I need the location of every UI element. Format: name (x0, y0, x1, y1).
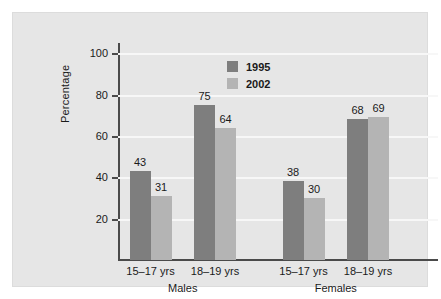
y-axis-tick-label: 40 (96, 171, 108, 183)
bar (304, 198, 325, 260)
legend-swatch-1995 (227, 61, 238, 72)
y-axis-tick (112, 136, 118, 138)
bar (215, 128, 236, 260)
legend-label-2002: 2002 (246, 78, 270, 90)
plot-area: 10080604020 4331756438306869 (118, 43, 438, 260)
y-axis-tick (112, 95, 118, 97)
bar-value-label: 69 (372, 102, 384, 114)
x-axis-category-label: 18–19 yrs (191, 265, 239, 277)
legend-label-1995: 1995 (246, 61, 270, 73)
bar-value-label: 30 (308, 183, 320, 195)
x-axis-category-label: 15–17 yrs (126, 265, 174, 277)
gridline (118, 95, 438, 97)
bar-value-label: 75 (198, 90, 210, 102)
y-axis-tick (112, 177, 118, 179)
legend-swatch-2002 (227, 78, 238, 89)
y-axis-tick (112, 219, 118, 221)
x-axis-group-label: Females (315, 282, 357, 294)
legend-item-2002: 2002 (227, 77, 270, 90)
x-axis-category-label: 18–19 yrs (344, 265, 392, 277)
y-axis-title: Percentage (59, 65, 71, 123)
bar (368, 117, 389, 260)
y-axis-tick-label: 60 (96, 130, 108, 142)
x-axis-category-label: 15–17 yrs (279, 265, 327, 277)
x-axis-group-label: Males (168, 282, 197, 294)
bar-value-label: 64 (219, 113, 231, 125)
bar (151, 196, 172, 260)
y-axis-tick-label: 20 (96, 213, 108, 225)
y-axis-tick-label: 80 (96, 89, 108, 101)
legend-item-1995: 1995 (227, 60, 270, 73)
bar (347, 119, 368, 260)
gridline (118, 136, 438, 138)
chart-screenshot: Percentage 10080604020 4331756438306869 … (0, 0, 441, 299)
bar (283, 181, 304, 260)
y-axis-tick (112, 53, 118, 55)
bar-value-label: 38 (287, 166, 299, 178)
chart-legend: 1995 2002 (227, 60, 270, 94)
chart-panel: Percentage 10080604020 4331756438306869 … (12, 12, 428, 287)
gridline (118, 177, 438, 179)
bar-value-label: 43 (134, 156, 146, 168)
bar (130, 171, 151, 260)
gridline (118, 53, 438, 55)
y-axis-tick-label: 100 (90, 47, 108, 59)
bar (194, 105, 215, 260)
bar-value-label: 31 (155, 181, 167, 193)
bar-value-label: 68 (351, 104, 363, 116)
